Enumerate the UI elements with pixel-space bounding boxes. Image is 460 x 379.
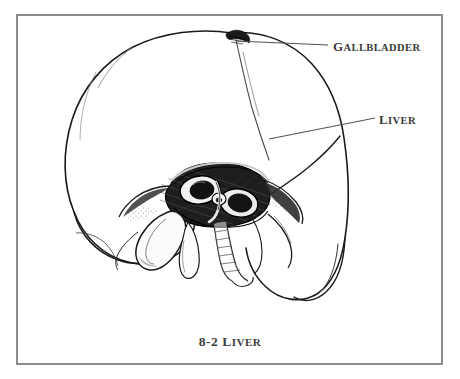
common-bile-duct-fill xyxy=(214,222,248,282)
label-liver-rest: IVER xyxy=(388,115,416,126)
caption-title-rest: IVER xyxy=(232,336,262,348)
label-liver: LIVER xyxy=(379,110,416,128)
label-liver-initial: L xyxy=(379,112,388,127)
caption-number: 8-2 xyxy=(199,334,219,349)
liver-anatomy-illustration xyxy=(0,0,460,379)
figure-caption: 8-2 LIVER xyxy=(0,332,460,350)
label-gallbladder: GALLBLADDER xyxy=(333,37,420,55)
label-gallbladder-rest: ALLBLADDER xyxy=(344,42,421,53)
figure-container: GALLBLADDER LIVER 8-2 LIVER xyxy=(0,0,460,379)
caption-title-initial: L xyxy=(222,334,232,349)
label-gallbladder-initial: G xyxy=(333,39,344,54)
